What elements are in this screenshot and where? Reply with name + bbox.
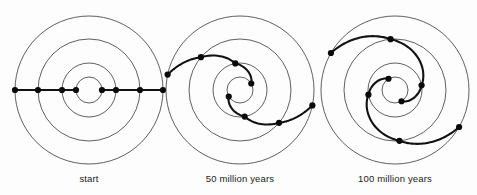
star-marker <box>398 98 404 104</box>
star-marker <box>113 87 119 93</box>
panel-caption-1: start <box>79 173 98 184</box>
star-marker <box>387 36 393 42</box>
star-marker <box>99 87 105 93</box>
star-marker <box>160 87 166 93</box>
star-marker <box>12 87 18 93</box>
star-marker <box>165 72 171 78</box>
star-marker <box>385 76 391 82</box>
star-marker <box>137 87 143 93</box>
star-marker <box>242 113 248 119</box>
panel-caption-2: 50 million years <box>206 173 274 184</box>
star-marker <box>226 93 232 99</box>
star-marker <box>198 54 204 60</box>
star-marker <box>396 138 402 144</box>
panel-caption-3: 100 million years <box>358 173 432 184</box>
star-marker <box>309 102 315 108</box>
spiral-arm-winding-diagram: start50 million years100 million years <box>0 0 477 195</box>
star-marker <box>35 87 41 93</box>
star-marker <box>328 50 334 56</box>
star-marker <box>365 92 371 98</box>
star-marker <box>73 87 79 93</box>
star-marker <box>276 120 282 126</box>
star-marker <box>59 87 65 93</box>
star-marker <box>232 60 238 66</box>
star-marker <box>456 124 462 130</box>
star-marker <box>418 82 424 88</box>
star-marker <box>248 80 254 86</box>
